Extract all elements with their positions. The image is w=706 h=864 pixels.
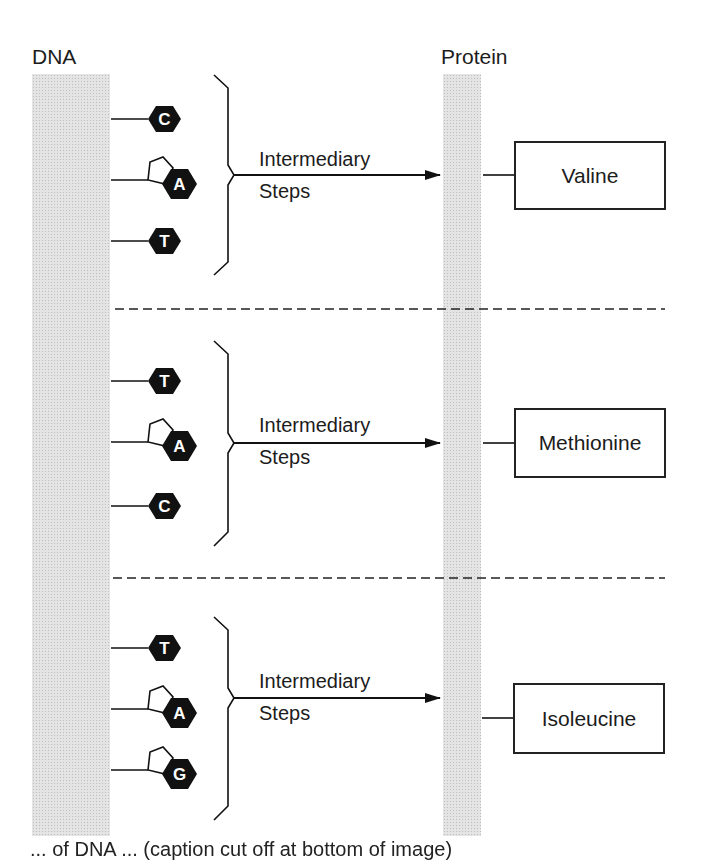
- base-letter: T: [159, 639, 170, 658]
- brace: [214, 75, 234, 275]
- base-letter: C: [158, 110, 170, 129]
- base-letter: T: [159, 232, 170, 251]
- amino-acid-box-valine: Valine: [514, 141, 666, 210]
- base-letter: T: [159, 372, 170, 391]
- base-letter: A: [173, 437, 185, 456]
- steps-label: Intermediary Steps: [259, 146, 370, 204]
- amino-acid-box-isoleucine: Isoleucine: [513, 683, 665, 754]
- steps-label: Intermediary Steps: [259, 412, 370, 470]
- base-letter: A: [173, 704, 185, 723]
- figure-caption: ... of DNA ... (caption cut off at botto…: [0, 838, 706, 864]
- brace: [214, 617, 234, 820]
- amino-acid-box-methionine: Methionine: [514, 408, 666, 478]
- base-letter: G: [173, 765, 186, 784]
- steps-label: Intermediary Steps: [259, 668, 370, 726]
- brace: [214, 341, 234, 546]
- base-letter: C: [158, 497, 170, 516]
- base-letter: A: [173, 175, 185, 194]
